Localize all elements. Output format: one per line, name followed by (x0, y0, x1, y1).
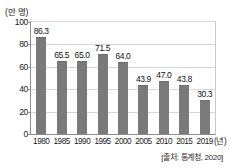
bar-slot: 65.0 (72, 22, 92, 134)
y-axis-tick-label: 80 (2, 40, 28, 49)
bar-series: 86.365.565.071.564.043.947.043.830.3 (31, 22, 215, 134)
x-axis-tick-label: 2005 (133, 137, 153, 149)
x-axis-tick-label: 1985 (52, 137, 72, 149)
bar (98, 54, 108, 134)
x-axis-tick-label: 1990 (72, 137, 92, 149)
y-axis-unit-label: (만 명) (5, 7, 28, 17)
bar-chart: (만 명) 020406080100 86.365.565.071.564.04… (0, 0, 229, 168)
bar (138, 85, 148, 134)
bar-slot: 47.0 (154, 22, 174, 134)
bar-value-label: 47.0 (156, 71, 171, 80)
bar-value-label: 86.3 (34, 27, 49, 36)
x-axis-tick-label: 2000 (113, 137, 133, 149)
y-axis-tick-label: 60 (2, 63, 28, 72)
x-axis-tick-labels: 198019851990199520002005201020152019 (31, 137, 215, 149)
y-axis-ticks: 020406080100 (0, 21, 28, 135)
y-axis-tick-label: 0 (2, 130, 28, 139)
bar-value-label: 65.0 (75, 51, 90, 60)
bar (200, 100, 210, 134)
bar-slot: 43.8 (174, 22, 194, 134)
y-axis-tick-label: 100 (2, 18, 28, 27)
source-note: [출처: 통계청, 2020] (161, 153, 223, 163)
bar (57, 61, 67, 134)
bar (118, 62, 128, 134)
bar-slot: 64.0 (113, 22, 133, 134)
bar-slot: 65.5 (52, 22, 72, 134)
bar-value-label: 30.3 (197, 90, 212, 99)
x-axis-tick-label: 2019 (195, 137, 215, 149)
x-axis-tick-label: 1995 (93, 137, 113, 149)
x-axis-tick-label: 2015 (174, 137, 194, 149)
bar-value-label: 64.0 (115, 52, 130, 61)
x-axis-unit-label: (년) (214, 137, 226, 147)
bar-value-label: 43.8 (177, 75, 192, 84)
bar-slot: 71.5 (93, 22, 113, 134)
bar-value-label: 65.5 (54, 51, 69, 60)
bar (179, 85, 189, 134)
y-axis-tick-label: 20 (2, 107, 28, 116)
bar-slot: 30.3 (195, 22, 215, 134)
bar (159, 81, 169, 134)
bar-slot: 43.9 (133, 22, 153, 134)
bar-slot: 86.3 (31, 22, 51, 134)
y-axis-tick-label: 40 (2, 85, 28, 94)
bar (77, 61, 87, 134)
bar (36, 37, 46, 134)
bar-value-label: 43.9 (136, 75, 151, 84)
bar-value-label: 71.5 (95, 44, 110, 53)
x-axis-tick-label: 2010 (154, 137, 174, 149)
x-axis-tick-label: 1980 (31, 137, 51, 149)
